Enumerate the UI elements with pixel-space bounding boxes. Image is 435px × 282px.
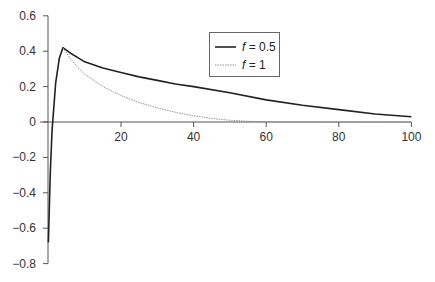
y-tick-label: −0.8 (12, 257, 36, 271)
x-tick-label: 60 (260, 130, 274, 144)
legend-label-1: f = 1 (242, 58, 266, 72)
y-tick-label: 0.2 (19, 80, 36, 94)
y-tick-label: −0.4 (12, 186, 36, 200)
y-tick-label: −0.2 (12, 150, 36, 164)
y-tick-label: −0.6 (12, 221, 36, 235)
x-tick-label: 80 (332, 130, 346, 144)
y-tick-label: 0.6 (19, 9, 36, 23)
chart: 0.60.40.20−0.2−0.4−0.6−0.820406080100 f … (0, 0, 435, 282)
x-tick-label: 40 (187, 130, 201, 144)
x-tick-label: 20 (114, 130, 128, 144)
y-tick-label: 0.4 (19, 44, 36, 58)
x-tick-label: 100 (401, 130, 421, 144)
legend-label-0: f = 0.5 (242, 40, 276, 54)
y-tick-label: 0 (29, 115, 36, 129)
legend: f = 0.5f = 1 (210, 33, 280, 77)
